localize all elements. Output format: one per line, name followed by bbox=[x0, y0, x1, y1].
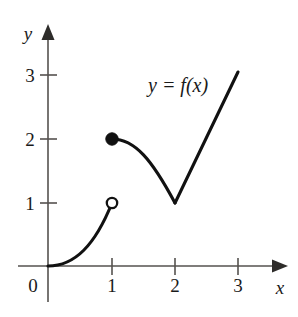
axes-group bbox=[18, 24, 288, 302]
y-tick-label-3: 3 bbox=[25, 65, 35, 86]
curve-branch-increasing-left bbox=[48, 203, 112, 266]
y-axis-arrow-icon bbox=[42, 24, 55, 40]
filled-circle-marker-at-1-2 bbox=[106, 133, 118, 145]
y-axis-label: y bbox=[22, 23, 33, 44]
graph-figure: y x 0 1 2 3 1 2 3 y = f(x) bbox=[0, 0, 298, 317]
function-equation-label: y = f(x) bbox=[146, 74, 208, 97]
x-tick-label-1: 1 bbox=[107, 275, 117, 296]
y-tick-label-2: 2 bbox=[25, 129, 35, 150]
curve-branch-decreasing-middle bbox=[112, 139, 175, 203]
function-graph-svg: y x 0 1 2 3 1 2 3 y = f(x) bbox=[0, 0, 298, 317]
x-tick-label-3: 3 bbox=[233, 275, 243, 296]
x-axis-arrow-icon bbox=[272, 260, 288, 273]
x-axis-label: x bbox=[275, 277, 285, 298]
y-tick-label-1: 1 bbox=[25, 193, 35, 214]
x-tick-label-2: 2 bbox=[170, 275, 180, 296]
open-circle-marker-at-1-1 bbox=[107, 198, 117, 208]
origin-tick-label: 0 bbox=[28, 275, 38, 296]
